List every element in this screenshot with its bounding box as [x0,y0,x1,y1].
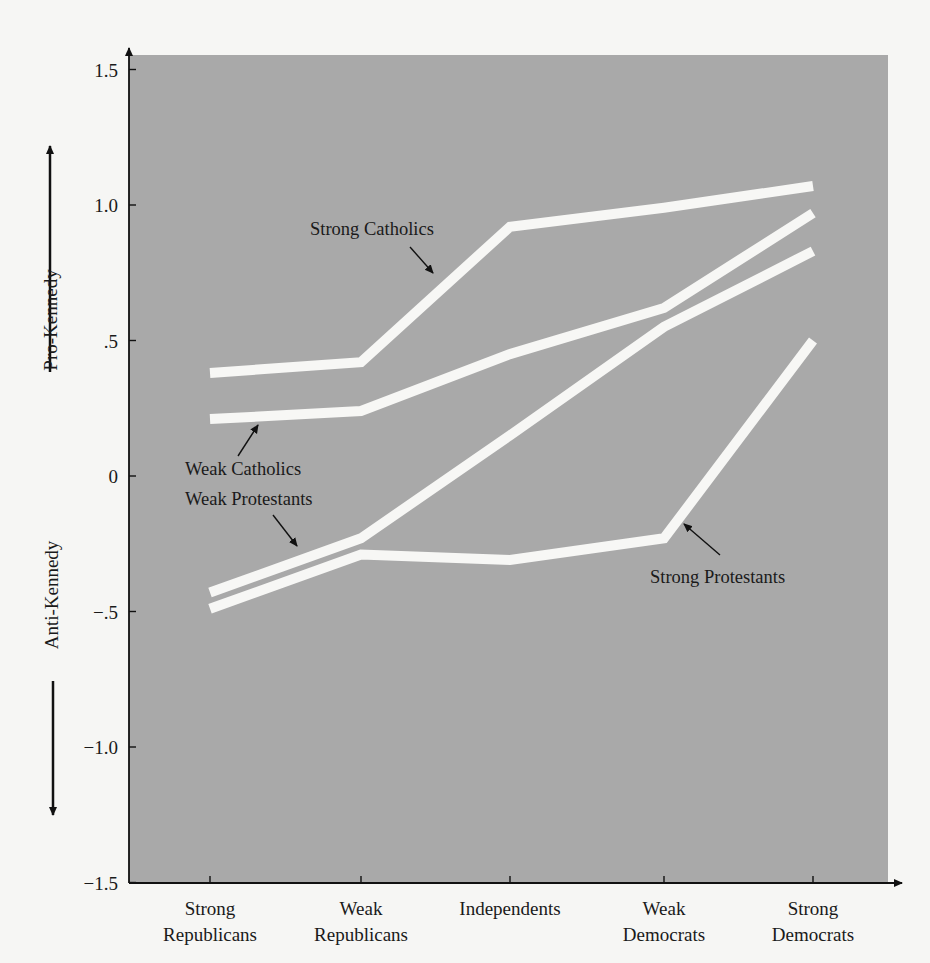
anti-kennedy-label-group: Anti-Kennedy [41,540,62,815]
x-tick-label: Weak [643,898,686,919]
x-tick-label: Democrats [623,924,705,945]
x-tick-label: Strong [185,898,236,919]
chart: Pro-Kennedy Anti-Kennedy 1.51.0.50−.5−1.… [0,0,930,963]
y-tick-label: .5 [104,331,118,352]
y-tick-label: 1.5 [94,60,118,81]
y-tick-label: 1.0 [94,195,118,216]
annotation-strong-protestants: Strong Protestants [650,567,785,587]
x-axis-ticks: StrongRepublicansWeakRepublicansIndepend… [163,876,854,945]
x-tick-label: Democrats [772,924,854,945]
y-tick-label: −1.5 [84,873,118,894]
x-tick-label: Strong [788,898,839,919]
annotation-weak-catholics: Weak Catholics [185,459,301,479]
ylabel-anti-kennedy: Anti-Kennedy [41,540,62,649]
pro-kennedy-label-group: Pro-Kennedy [40,146,61,372]
x-tick-label: Republicans [314,924,408,945]
ylabel-pro-kennedy: Pro-Kennedy [40,269,61,371]
y-side-labels: Pro-Kennedy Anti-Kennedy [40,146,62,815]
y-tick-label: 0 [109,466,119,487]
y-tick-label: −.5 [93,602,118,623]
x-tick-label: Weak [340,898,383,919]
x-tick-label: Republicans [163,924,257,945]
annotation-weak-protestants: Weak Protestants [185,489,312,509]
annotation-strong-catholics: Strong Catholics [310,219,434,239]
y-tick-label: −1.0 [84,737,118,758]
x-tick-label: Independents [459,898,560,919]
